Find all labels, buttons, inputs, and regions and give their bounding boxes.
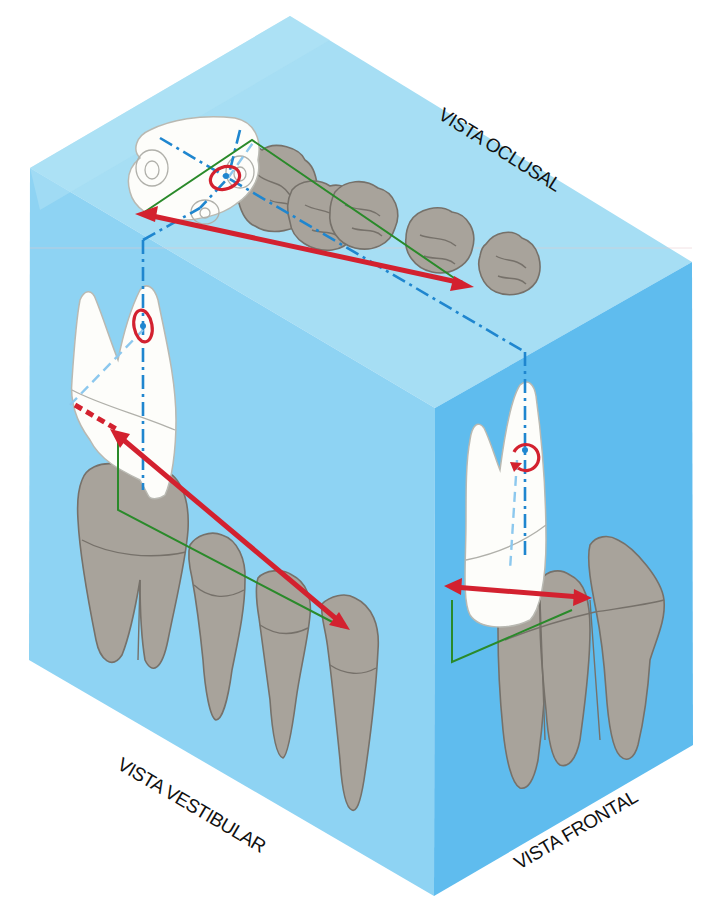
cube-diagram: VISTA OCLUSAL VISTA VESTIBULAR VISTA FRO…	[0, 0, 712, 915]
dental-projection-figure: VISTA OCLUSAL VISTA VESTIBULAR VISTA FRO…	[0, 0, 712, 915]
